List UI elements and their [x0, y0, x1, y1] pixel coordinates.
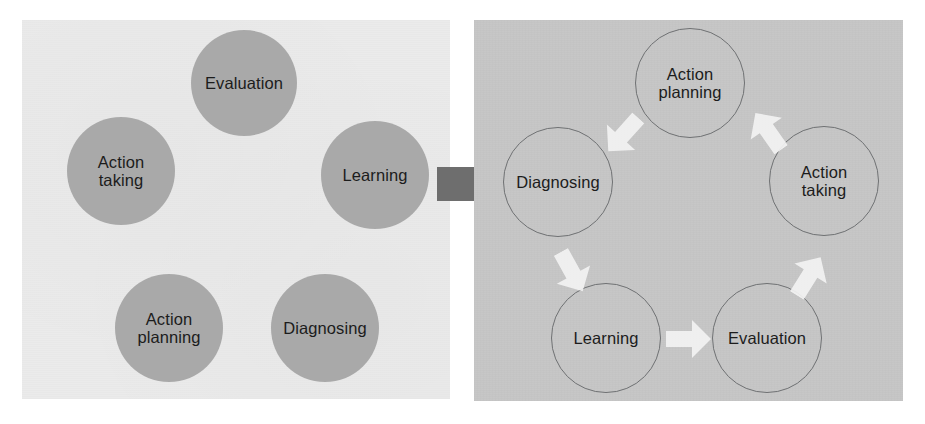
node-diagnosing: Diagnosing [503, 127, 613, 237]
node-evaluation: Evaluation [191, 30, 297, 136]
node-label: Action planning [137, 310, 200, 347]
node-action-taking: Action taking [67, 117, 175, 225]
node-label: Action taking [801, 163, 847, 200]
node-label: Learning [342, 166, 407, 184]
node-action-planning: Action planning [115, 274, 223, 382]
node-label: Evaluation [728, 329, 806, 347]
node-label: Diagnosing [283, 319, 367, 337]
node-label: Learning [573, 329, 638, 347]
node-action-planning: Action planning [635, 28, 745, 138]
arrow-evaluation-to-learning-icon [666, 319, 712, 359]
node-label: Diagnosing [516, 173, 600, 191]
node-learning: Learning [321, 121, 429, 229]
node-label: Evaluation [205, 74, 283, 92]
diagram-canvas: EvaluationAction takingLearningAction pl… [0, 0, 925, 424]
node-label: Action planning [658, 65, 721, 102]
node-diagnosing: Diagnosing [271, 274, 379, 382]
node-label: Action taking [98, 153, 144, 190]
